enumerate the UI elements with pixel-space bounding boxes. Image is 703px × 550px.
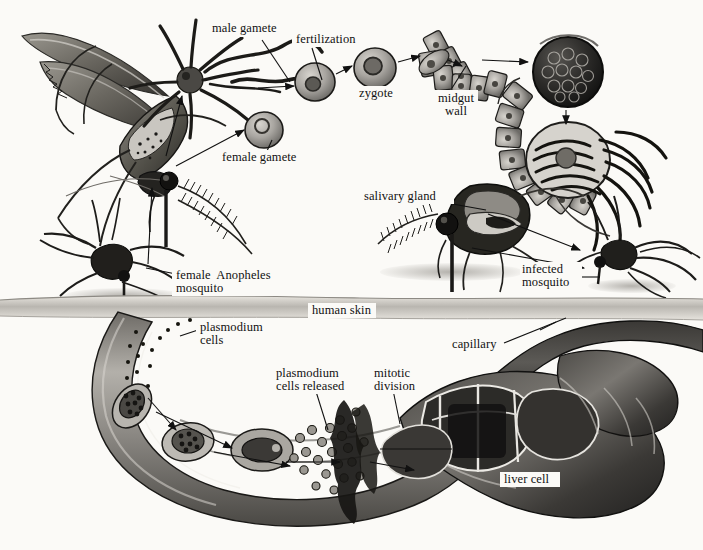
label-fertilization: fertilization: [296, 33, 356, 47]
diagram-canvas: male gamete fertilization zygote midgut …: [0, 0, 703, 550]
label-human-skin: human skin: [312, 304, 371, 318]
oocyst: [533, 35, 603, 107]
label-female-gamete: female gamete: [222, 151, 297, 165]
fertilization-cell: [295, 63, 335, 101]
label-plasmodium-cells: plasmodium cells: [200, 321, 263, 347]
zygote-cell: [354, 48, 396, 88]
label-midgut-wall: midgut wall: [433, 92, 479, 118]
label-infected-mosquito: infected mosquito: [522, 263, 569, 289]
label-plasmodium-cells-released: plasmodium cells released: [276, 367, 344, 393]
label-male-gamete: male gamete: [212, 22, 277, 36]
label-liver-cell: liver cell: [504, 473, 549, 487]
female-gamete-cell: [245, 112, 283, 148]
label-female-anopheles-mosquito: female Anopheles mosquito: [176, 269, 271, 295]
label-mitotic-division: mitotic division: [374, 367, 415, 393]
label-zygote: zygote: [359, 87, 393, 101]
illustration-artwork: [0, 0, 703, 550]
label-capillary: capillary: [452, 338, 497, 352]
label-salivary-gland: salivary gland: [364, 190, 436, 204]
